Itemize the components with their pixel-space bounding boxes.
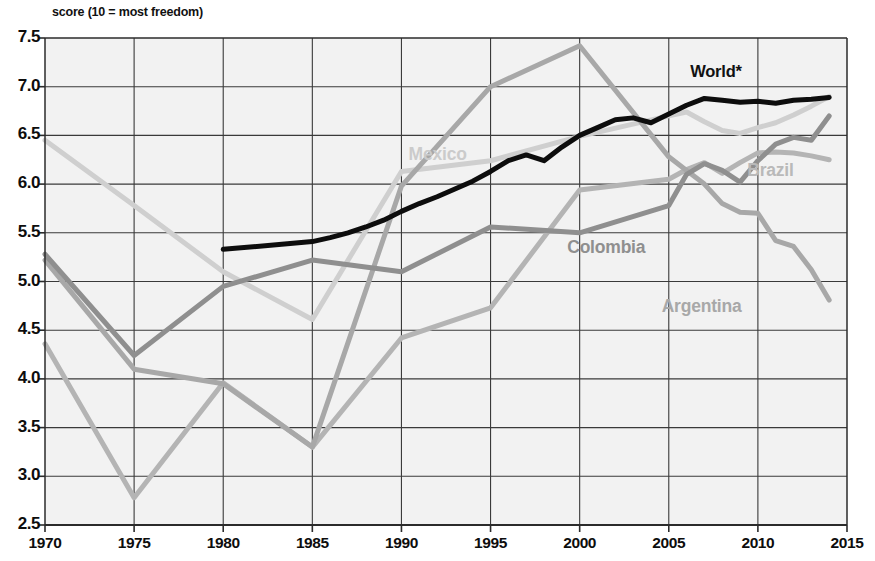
- x-tick-label: 2015: [812, 534, 875, 552]
- x-tick-label: 2010: [723, 534, 793, 552]
- x-tick-label: 2005: [634, 534, 704, 552]
- x-tick-label: 2000: [545, 534, 615, 552]
- x-tick-label: 1970: [10, 534, 80, 552]
- y-tick-label: 2.5: [0, 514, 40, 534]
- x-tick-label: 1990: [366, 534, 436, 552]
- freedom-score-line-chart: score (10 = most freedom) 2.53.03.54.04.…: [0, 0, 875, 561]
- series-label-world: World*: [690, 62, 742, 81]
- series-label-brazil: Brazil: [747, 160, 793, 181]
- y-tick-label: 3.0: [0, 465, 40, 485]
- y-tick-label: 7.5: [0, 27, 40, 47]
- series-label-colombia: Colombia: [567, 237, 645, 258]
- chart-plot-area: [0, 0, 875, 561]
- y-tick-label: 5.0: [0, 271, 40, 291]
- y-tick-label: 4.0: [0, 368, 40, 388]
- series-label-argentina: Argentina: [662, 296, 742, 317]
- x-tick-label: 1995: [456, 534, 526, 552]
- y-tick-label: 6.5: [0, 124, 40, 144]
- y-tick-label: 7.0: [0, 76, 40, 96]
- x-tick-label: 1975: [99, 534, 169, 552]
- y-tick-label: 6.0: [0, 173, 40, 193]
- series-label-mexico: Mexico: [409, 144, 467, 165]
- y-tick-label: 5.5: [0, 222, 40, 242]
- x-tick-label: 1985: [277, 534, 347, 552]
- x-tick-label: 1980: [188, 534, 258, 552]
- y-tick-label: 3.5: [0, 417, 40, 437]
- y-tick-label: 4.5: [0, 319, 40, 339]
